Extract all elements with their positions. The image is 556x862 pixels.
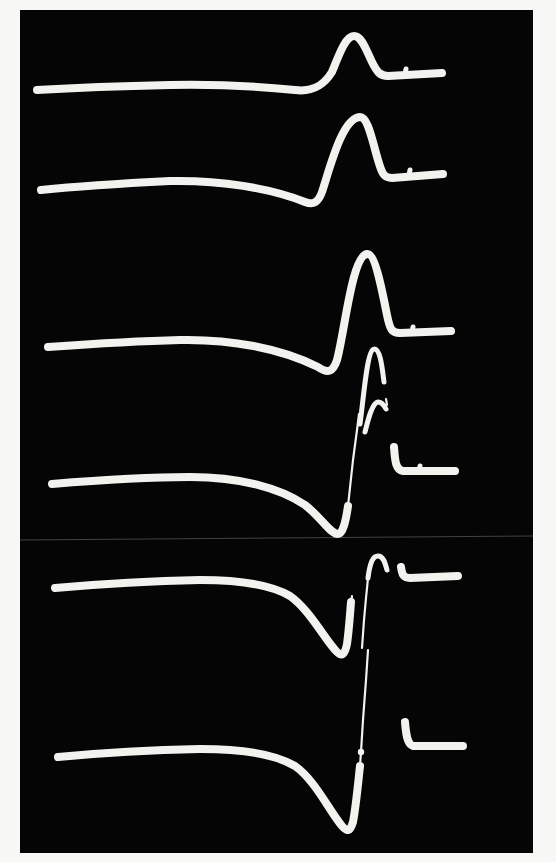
trace-segment xyxy=(351,596,352,602)
oscilloscope-screen xyxy=(0,0,556,862)
trace-segment xyxy=(409,170,410,175)
trace-segment xyxy=(386,399,387,405)
oscilloscope-photo xyxy=(0,0,556,862)
trace-segment xyxy=(412,327,413,332)
trace-dot xyxy=(358,749,364,755)
trace-segment xyxy=(419,466,420,470)
trace-segment xyxy=(405,69,406,74)
scope-screen-area xyxy=(20,10,533,853)
